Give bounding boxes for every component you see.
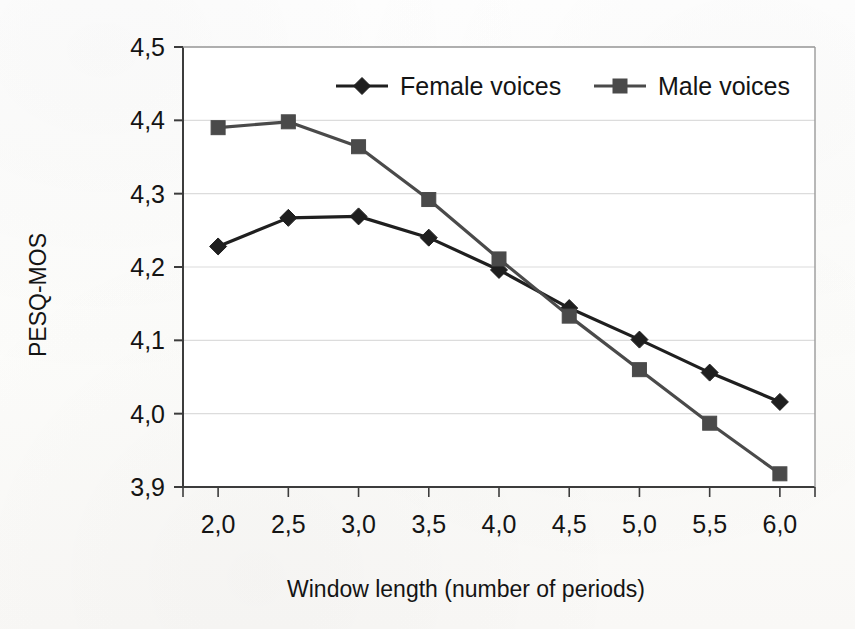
y-tick-label-4,4: 4,4 — [130, 106, 165, 134]
x-axis-title: Window length (number of periods) — [287, 576, 645, 602]
data-point-1-8 — [773, 467, 787, 481]
legend-label-1: Male voices — [658, 72, 790, 100]
y-tick-label-4,1: 4,1 — [130, 326, 165, 354]
y-axis: 3,94,04,14,24,34,44,5 — [130, 33, 183, 501]
x-tick-label-3,5: 3,5 — [411, 510, 446, 538]
legend-label-0: Female voices — [400, 72, 561, 100]
y-tick-label-3,9: 3,9 — [130, 473, 165, 501]
data-point-1-2 — [352, 140, 366, 154]
x-tick-label-4,5: 4,5 — [552, 510, 587, 538]
x-tick-label-2,0: 2,0 — [201, 510, 236, 538]
y-tick-label-4,0: 4,0 — [130, 400, 165, 428]
y-tick-label-4,2: 4,2 — [130, 253, 165, 281]
x-tick-label-6,0: 6,0 — [763, 510, 798, 538]
x-tick-label-5,0: 5,0 — [622, 510, 657, 538]
chart-canvas: 3,94,04,14,24,34,44,5 2,02,53,03,54,04,5… — [0, 0, 855, 629]
x-tick-label-5,5: 5,5 — [692, 510, 727, 538]
data-point-1-3 — [422, 193, 436, 207]
x-axis: 2,02,53,03,54,04,55,05,56,0 — [183, 487, 815, 538]
pesq-mos-line-chart: 3,94,04,14,24,34,44,5 2,02,53,03,54,04,5… — [0, 0, 855, 629]
x-tick-label-2,5: 2,5 — [271, 510, 306, 538]
data-point-1-6 — [632, 363, 646, 377]
data-point-1-4 — [492, 252, 506, 266]
x-tick-label-3,0: 3,0 — [341, 510, 376, 538]
y-tick-label-4,3: 4,3 — [130, 180, 165, 208]
data-point-1-7 — [703, 416, 717, 430]
data-point-1-5 — [562, 309, 576, 323]
data-point-1-1 — [281, 115, 295, 129]
data-point-1-0 — [211, 121, 225, 135]
legend-marker-square-icon — [613, 79, 627, 93]
x-tick-label-4,0: 4,0 — [482, 510, 517, 538]
y-axis-title: PESQ-MOS — [25, 233, 51, 357]
y-tick-label-4,5: 4,5 — [130, 33, 165, 61]
